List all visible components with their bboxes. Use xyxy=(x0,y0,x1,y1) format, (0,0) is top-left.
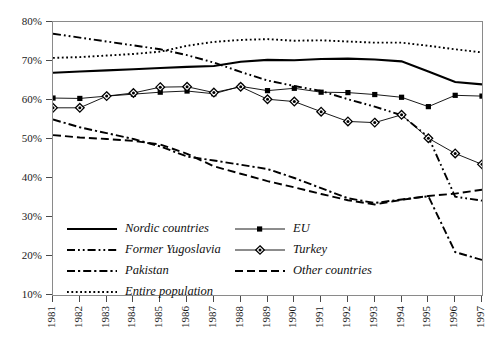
legend-swatch-former-yugoslavia xyxy=(66,244,118,256)
y-tick-label: 50% xyxy=(22,133,42,144)
x-tick-label: 1992 xyxy=(341,306,352,328)
x-tick-label: 1983 xyxy=(100,306,111,328)
legend-label-former-yugoslavia: Former Yugoslavia xyxy=(125,243,221,256)
series-nordic-countries xyxy=(53,59,482,85)
legend-swatch-entire-population xyxy=(66,286,118,298)
data-point-marker xyxy=(345,90,350,95)
data-point-marker-center xyxy=(159,86,162,89)
x-tick-label: 1981 xyxy=(46,306,57,328)
x-tick-mark xyxy=(481,296,482,302)
x-tick-mark xyxy=(52,296,53,302)
data-point-marker xyxy=(372,92,377,97)
legend-swatch-other-countries xyxy=(234,265,286,277)
legend-label-pakistan: Pakistan xyxy=(125,264,169,277)
legend-item-turkey[interactable]: Turkey xyxy=(234,243,402,256)
y-tick-label: 70% xyxy=(22,55,42,66)
x-tick-label: 1993 xyxy=(368,306,379,328)
data-point-marker-center xyxy=(78,106,81,109)
x-tick-label: 1996 xyxy=(448,306,459,328)
legend-swatch-eu xyxy=(234,223,286,235)
data-point-marker xyxy=(53,95,56,100)
legend-label-turkey: Turkey xyxy=(293,243,327,256)
x-tick-label: 1994 xyxy=(395,306,406,328)
data-point-marker-center xyxy=(293,100,296,103)
series-former-yugoslavia xyxy=(53,34,482,201)
series-other-countries xyxy=(53,135,482,204)
legend-swatch-pakistan xyxy=(66,265,118,277)
legend-item-other-countries[interactable]: Other countries xyxy=(234,264,402,277)
legend-swatch-turkey xyxy=(234,244,286,256)
legend-item-eu[interactable]: EU xyxy=(234,222,402,235)
data-point-marker-center xyxy=(212,91,215,94)
data-point-marker-center xyxy=(132,91,135,94)
legend-label-other-countries: Other countries xyxy=(293,264,372,277)
x-tick-label: 1997 xyxy=(475,306,486,328)
series-line xyxy=(53,59,482,85)
x-tick-mark xyxy=(454,296,455,302)
data-point-marker-center xyxy=(239,85,242,88)
legend-label-entire-population: Entire population xyxy=(125,285,213,298)
data-point-marker-center xyxy=(400,113,403,116)
y-tick-label: 30% xyxy=(22,211,42,222)
series-line xyxy=(53,135,482,204)
x-tick-label: 1991 xyxy=(314,306,325,328)
data-point-marker-center xyxy=(105,95,108,98)
y-axis: 10%20%30%40%50%60%70%80% xyxy=(0,0,52,341)
data-point-marker-center xyxy=(186,85,189,88)
data-point-marker xyxy=(399,95,404,100)
legend-label-eu: EU xyxy=(293,222,310,235)
x-tick-label: 1987 xyxy=(207,306,218,328)
data-point-marker xyxy=(479,94,482,99)
data-point-marker-center xyxy=(346,120,349,123)
x-tick-label: 1986 xyxy=(180,306,191,328)
chart-legend: Nordic countriesEUFormer YugoslaviaTurke… xyxy=(66,218,396,302)
data-point-marker xyxy=(77,96,82,101)
data-point-marker-center xyxy=(320,110,323,113)
x-tick-label: 1982 xyxy=(73,306,84,328)
data-point-marker-center xyxy=(266,98,269,101)
data-point-marker xyxy=(265,88,270,93)
legend-item-nordic-countries[interactable]: Nordic countries xyxy=(66,222,234,235)
legend-item-entire-population[interactable]: Entire population xyxy=(66,285,234,298)
legend-item-former-yugoslavia[interactable]: Former Yugoslavia xyxy=(66,243,234,256)
y-tick-label: 40% xyxy=(22,172,42,183)
data-point-marker-center xyxy=(373,121,376,124)
y-tick-label: 60% xyxy=(22,94,42,105)
y-tick-label: 80% xyxy=(22,16,42,27)
x-tick-label: 1995 xyxy=(421,306,432,328)
x-tick-label: 1990 xyxy=(287,306,298,328)
x-tick-label: 1989 xyxy=(261,306,272,328)
legend-label-nordic-countries: Nordic countries xyxy=(125,222,209,235)
x-tick-mark xyxy=(427,296,428,302)
legend-item-pakistan[interactable]: Pakistan xyxy=(66,264,234,277)
x-axis: 1981198219831984198519861987198819891990… xyxy=(0,296,503,341)
line-chart: 10%20%30%40%50%60%70%80% 198119821983198… xyxy=(0,0,503,341)
x-tick-mark xyxy=(401,296,402,302)
data-point-marker xyxy=(453,93,458,98)
data-point-marker-center xyxy=(454,152,457,155)
series-line xyxy=(53,39,482,58)
x-tick-label: 1984 xyxy=(126,306,137,328)
series-entire-population xyxy=(53,39,482,58)
legend-swatch-nordic-countries xyxy=(66,223,118,235)
x-tick-label: 1988 xyxy=(234,306,245,328)
data-point-marker xyxy=(426,104,431,109)
x-tick-label: 1985 xyxy=(153,306,164,328)
data-point-marker-center xyxy=(427,137,430,140)
series-line xyxy=(53,34,482,201)
y-tick-label: 20% xyxy=(22,250,42,261)
